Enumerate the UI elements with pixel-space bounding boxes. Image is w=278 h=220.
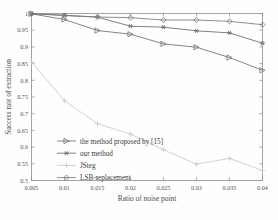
x-tick-label: 0.04: [257, 184, 268, 191]
y-tick-label: 0.8: [20, 77, 28, 84]
y-tick-label: 0.95: [17, 26, 28, 33]
y-tick-label: 0.65: [17, 127, 28, 134]
y-tick-label: 0.55: [17, 160, 28, 167]
marker-plus: [128, 131, 133, 136]
legend-item-2[interactable]: JSteg: [57, 162, 96, 170]
x-tick-label: 0.015: [91, 184, 105, 191]
x-tick-label: 0.01: [59, 184, 70, 191]
marker-plus: [227, 156, 232, 161]
legend-label: JSteg: [80, 162, 96, 170]
y-tick-label: 0.9: [20, 43, 28, 50]
y-tick-label: 0.7: [20, 110, 28, 117]
y-tick-label: 0.85: [17, 60, 28, 67]
figure-container: 0.50.550.60.650.70.750.80.850.90.9510.00…: [0, 0, 278, 220]
x-axis-title: Ratio of noise point: [118, 194, 177, 203]
series-1: [29, 12, 265, 46]
marker-plus: [95, 121, 100, 126]
legend-label: LSB-replacement: [80, 174, 131, 182]
marker-plus: [260, 168, 265, 173]
x-tick-label: 0.005: [25, 184, 39, 191]
x-tick-label: 0.025: [157, 184, 171, 191]
marker-asterisk: [227, 31, 232, 35]
legend-label: the method proposed by [15]: [80, 138, 163, 146]
chart-canvas: 0.50.550.60.650.70.750.80.850.90.9510.00…: [0, 0, 278, 220]
y-tick-label: 0.75: [17, 93, 28, 100]
marker-plus: [161, 147, 166, 152]
x-tick-label: 0.03: [191, 184, 202, 191]
marker-asterisk: [64, 151, 69, 155]
legend-item-1[interactable]: our method: [57, 150, 113, 158]
y-tick-label: 1: [25, 10, 28, 17]
plot-frame: [32, 14, 263, 181]
marker-asterisk: [194, 29, 199, 33]
legend-item-3[interactable]: LSB-replacement: [57, 174, 131, 182]
legend-item-0[interactable]: the method proposed by [15]: [57, 138, 163, 146]
y-axis-title: Success rate of extraction: [4, 59, 13, 135]
marker-plus: [194, 162, 199, 167]
x-tick-label: 0.02: [125, 184, 136, 191]
marker-asterisk: [161, 25, 166, 29]
series-2: [29, 59, 265, 173]
marker-asterisk: [128, 24, 133, 28]
y-tick-label: 0.6: [20, 143, 28, 150]
marker-plus: [64, 163, 69, 168]
x-tick-label: 0.035: [223, 184, 237, 191]
series-0: [29, 11, 265, 73]
legend-label: our method: [80, 150, 113, 158]
